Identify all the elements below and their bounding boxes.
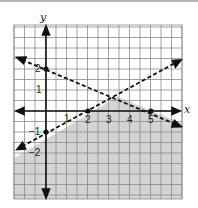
y-tick-neg1: −1 [29, 127, 40, 137]
y-tick-1: 1 [36, 85, 42, 95]
x-tick-3: 3 [106, 115, 112, 125]
point-0-neg1 [43, 129, 48, 134]
x-tick-2: 2 [85, 115, 91, 125]
y-tick-2: 2 [35, 64, 41, 74]
x-tick-4: 4 [127, 115, 133, 125]
point-0-2 [43, 66, 48, 71]
point-5-0 [148, 108, 153, 113]
graph-canvas [0, 0, 198, 208]
x-tick-5: 5 [148, 115, 154, 125]
y-tick-neg2: −2 [29, 148, 40, 158]
x-tick-1: 1 [64, 114, 70, 124]
y-axis-label: y [40, 12, 46, 23]
point-2-0 [85, 108, 90, 113]
x-axis-label: x [184, 104, 190, 115]
